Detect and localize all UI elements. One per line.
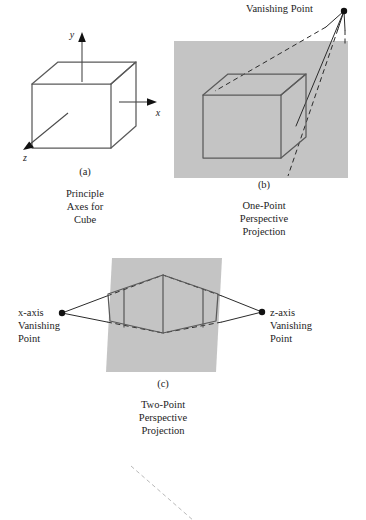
panel-b-caption-line2: Perspective [240,213,289,224]
panel-c-group: x-axis Vanishing Point z-axis Vanishing … [18,258,313,436]
vp-left-label-line3: Point [18,333,40,344]
vanishing-point-dot-z [259,309,265,315]
vp-right-label-line3: Point [270,333,292,344]
vp-right-label-line2: Vanishing [270,320,313,331]
vanishing-point-label-b: Vanishing Point [246,3,313,14]
vp-ray-right-upper-outer [222,296,262,312]
axis-z-line [29,113,68,145]
axis-x-arrowhead [147,98,157,106]
perspective-projection-figure: y x z (a) Principle Axes for Cube [0,0,366,520]
panel-c-caption-line2: Perspective [139,412,188,423]
panel-a-caption-line1: Principle [66,188,104,199]
axis-y-arrowhead [78,32,86,42]
axis-y: y [69,29,86,82]
panel-c-tag: (c) [157,378,169,390]
axis-z: z [22,113,68,163]
panel-a-caption-line2: Axes for [67,201,104,212]
panel-a-group: y x z (a) Principle Axes for Cube [22,29,161,225]
panel-b-group: Vanishing Point (b) One-Point Perspectiv… [174,3,348,237]
vp-right-label-line1: z-axis [270,307,295,318]
vp-ray-left-lower-outer [62,313,107,322]
vanishing-point-dot-x [59,310,65,316]
vanishing-point-dot-b [341,8,347,14]
cube-a-top-face [32,62,136,84]
panel-a-caption-line3: Cube [74,214,97,225]
panel-c-caption-line1: Two-Point [141,399,185,410]
panel-c-caption-line3: Projection [141,425,185,436]
cube-a-front-face [32,84,111,148]
stray-dashed-line [131,466,194,520]
panel-a-tag: (a) [79,166,91,178]
vp-ray-left-upper-outer [62,296,107,313]
axis-x: x [119,98,161,118]
vp-ray-right-lower-outer [222,312,262,322]
cube-a-right-face [111,62,136,148]
vp-left-label-line1: x-axis [18,307,44,318]
figure-root: y x z (a) Principle Axes for Cube [0,0,366,520]
axis-x-label: x [155,107,161,118]
axis-z-label: z [22,152,27,163]
panel-b-tag: (b) [258,179,271,191]
axis-y-label: y [69,29,75,40]
panel-b-caption-line1: One-Point [242,200,285,211]
vp-left-label-line2: Vanishing [18,320,61,331]
panel-b-caption-line3: Projection [242,226,286,237]
